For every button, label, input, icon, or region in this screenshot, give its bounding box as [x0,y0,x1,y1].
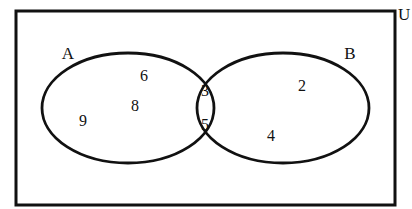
element-a-only-2: 8 [131,97,139,114]
universal-set-label: U [398,5,410,24]
set-b-label: B [344,44,355,63]
element-a-only-3: 9 [79,112,87,129]
element-intersection-2: 5 [201,116,209,133]
universal-set-rectangle [16,11,395,205]
element-b-only-2: 4 [267,127,275,144]
element-intersection-1: 3 [201,82,209,99]
set-a-ellipse [42,53,214,163]
set-b-ellipse [197,53,369,163]
venn-diagram-figure: U A B 6 8 9 3 5 2 4 [0,0,412,209]
set-a-label: A [62,44,75,63]
element-a-only-1: 6 [140,67,148,84]
venn-diagram-canvas: U A B 6 8 9 3 5 2 4 [0,0,412,209]
element-b-only-1: 2 [298,77,306,94]
